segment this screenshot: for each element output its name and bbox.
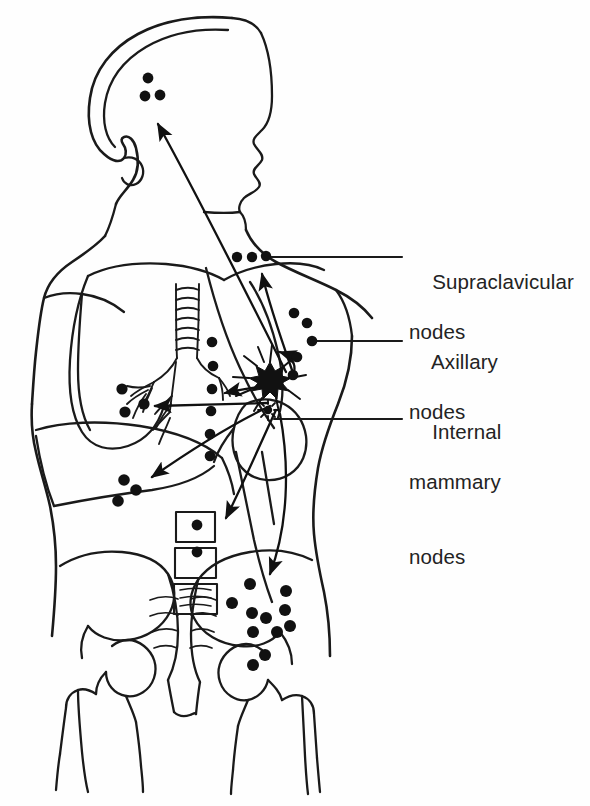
lymph-node-dot xyxy=(143,73,154,84)
lymph-node-dot xyxy=(247,659,259,671)
lymph-node-dot xyxy=(292,352,303,363)
lymph-node-dot xyxy=(112,495,124,507)
lymph-node-dot xyxy=(226,597,238,609)
lymph-node-dot xyxy=(208,361,219,372)
vertebral-nodes xyxy=(192,520,203,558)
pelvic-iliac-nodes xyxy=(226,578,296,671)
femur-outlines xyxy=(56,640,320,794)
lymph-node-dot xyxy=(247,626,259,638)
label-axillary-line1: Axillary xyxy=(431,350,498,373)
label-supraclavicular-line1: Supraclavicular xyxy=(432,270,574,293)
lymph-node-dot xyxy=(130,484,142,496)
lymph-node-dot xyxy=(155,90,166,101)
lymph-node-dot xyxy=(138,398,149,409)
lymph-node-dot xyxy=(207,384,218,395)
abdominal-vessel xyxy=(236,452,274,602)
lymph-node-dot xyxy=(192,547,203,558)
mediastinal-nodes xyxy=(205,337,219,462)
head-outline xyxy=(89,17,272,236)
lymph-node-dot xyxy=(280,585,292,597)
lymph-node-dot xyxy=(302,318,313,329)
lymph-node-dot xyxy=(140,91,151,102)
arrow-to-abdominal xyxy=(152,406,270,477)
lymph-node-dot xyxy=(260,612,272,624)
lymph-node-dot xyxy=(232,252,242,262)
cervical-head-nodes xyxy=(140,73,166,102)
lymph-node-dot xyxy=(279,604,291,616)
leader-lines xyxy=(266,257,402,419)
lymph-node-dot xyxy=(206,406,217,417)
abdominal-nodes xyxy=(112,474,142,507)
label-internal-mammary-line2: mammary xyxy=(409,469,501,494)
lymph-node-dot xyxy=(119,406,130,417)
arrow-to-hepatic xyxy=(155,403,268,406)
supraclavicular-nodes xyxy=(232,251,271,262)
label-internal-mammary-line3: nodes xyxy=(409,544,501,569)
lymph-node-dot xyxy=(259,649,271,661)
nipple-areola-marker xyxy=(258,400,278,420)
lymph-node-dot xyxy=(284,620,296,632)
label-internal-mammary-line1: Internal xyxy=(432,420,501,443)
lymph-node-dot xyxy=(116,383,127,394)
lymph-node-dot xyxy=(288,370,299,381)
lymph-node-diagram-figure: Supraclavicular nodes Axillary nodes Int… xyxy=(0,0,590,806)
lymph-node-dot xyxy=(205,429,216,440)
lymph-node-dot xyxy=(261,251,271,261)
lymph-node-dot xyxy=(247,252,257,262)
lymph-node-dot xyxy=(271,626,283,638)
anatomy-illustration xyxy=(0,0,590,806)
metastasis-arrows xyxy=(152,124,294,574)
lymph-node-dot xyxy=(289,308,300,319)
lymph-node-dot xyxy=(246,607,258,619)
lymph-node-dot xyxy=(118,474,130,486)
lymph-node-dot xyxy=(192,520,203,531)
label-internal-mammary-nodes: Internal mammary nodes xyxy=(409,394,501,619)
lymph-node-dot xyxy=(207,337,218,348)
lymph-node-dot xyxy=(205,451,216,462)
lymph-node-dot xyxy=(244,578,256,590)
lymph-node-dot xyxy=(307,336,318,347)
hepatic-nodes xyxy=(116,383,149,417)
